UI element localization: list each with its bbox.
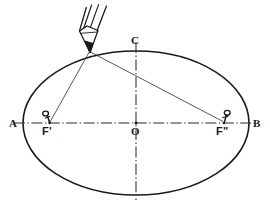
label-co-vertex-C: C <box>131 35 139 46</box>
pin-icon-right-focus <box>223 110 231 124</box>
label-vertex-B: B <box>253 118 261 129</box>
label-focus-left: F' <box>42 126 52 137</box>
thread-to-left-focus <box>50 52 90 123</box>
figure-canvas <box>0 0 270 205</box>
label-vertex-A: A <box>9 118 17 129</box>
pencil-icon <box>80 5 107 53</box>
ellipse-construction-figure: A B C O F' F" <box>0 0 270 205</box>
thread-to-right-focus <box>90 52 224 122</box>
pin-icon-left-focus <box>43 111 51 124</box>
label-center-O: O <box>131 126 140 137</box>
label-focus-right: F" <box>216 126 228 137</box>
